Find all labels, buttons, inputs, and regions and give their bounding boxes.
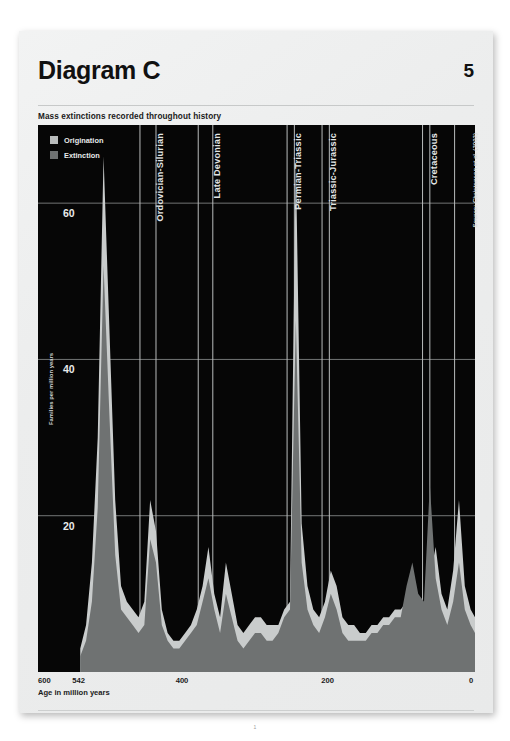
x-axis-tick-200: 200: [321, 676, 334, 685]
chart-plot-area: [38, 125, 475, 672]
header-divider: [38, 105, 474, 106]
event-band-label-2: Late Devonian: [212, 133, 222, 198]
legend-label-extinction: Extinction: [64, 151, 100, 160]
document-page: Diagram C 5 Mass extinctions recorded th…: [19, 31, 493, 713]
x-axis-tick-400: 400: [176, 676, 189, 685]
page-footer: 1: [0, 724, 510, 730]
series-area-extinction: [80, 266, 475, 672]
legend-swatch-origination: [50, 136, 58, 144]
page-number: 5: [463, 60, 474, 82]
page-title: Diagram C: [38, 56, 160, 85]
x-axis-tick-542: 542: [72, 676, 85, 685]
chart-container: Origination Extinction Ordovician-Siluri…: [38, 125, 475, 672]
event-band-label-4: Triassic-Jurassic: [328, 133, 338, 211]
x-axis-tick-600: 600: [38, 676, 51, 685]
legend-item-extinction: Extinction: [50, 149, 103, 161]
y-axis-tick-40: 40: [63, 363, 75, 375]
document-header: Diagram C 5: [38, 56, 474, 100]
y-axis-tick-60: 60: [63, 207, 75, 219]
legend-item-origination: Origination: [50, 134, 103, 146]
x-axis: 6005424002000 Age in million years: [38, 676, 475, 706]
x-axis-label: Age in million years: [38, 688, 110, 697]
y-axis-label: Families per million years: [48, 353, 54, 425]
x-axis-tick-0: 0: [469, 676, 473, 685]
event-band-label-5: Cretaceous: [429, 133, 439, 185]
chart-subtitle: Mass extinctions recorded throughout his…: [38, 112, 474, 121]
event-band-label-1: Ordovician-Silurian: [155, 133, 165, 222]
source-note: Source: Christensen et al. (2002): [471, 133, 478, 228]
y-axis-tick-20: 20: [63, 520, 75, 532]
legend-swatch-extinction: [50, 151, 58, 159]
footer-divider: [38, 710, 474, 711]
chart-legend: Origination Extinction: [50, 134, 103, 164]
event-band-label-3: Permian-Triassic: [293, 133, 303, 210]
legend-label-origination: Origination: [64, 136, 103, 145]
